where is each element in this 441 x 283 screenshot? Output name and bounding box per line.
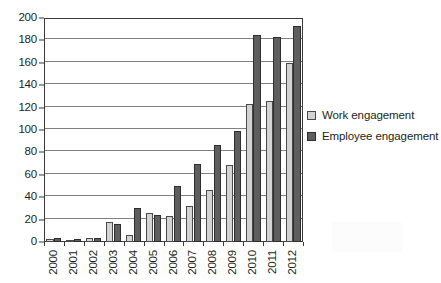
bar [186, 206, 193, 242]
bar-group [223, 18, 243, 242]
y-tick-label: 160 [18, 57, 37, 69]
x-tick-label: 2004 [128, 250, 140, 275]
bar [253, 35, 260, 242]
x-tick-label: 2002 [88, 250, 100, 275]
bar [106, 222, 113, 242]
x-tick-mark [104, 242, 105, 246]
legend-item-employee-engagement: Employee engagement [307, 131, 439, 143]
y-tick-label: 180 [18, 35, 37, 47]
x-tick-label: 2006 [168, 250, 180, 275]
bar [134, 208, 141, 242]
bar [126, 235, 133, 242]
bar [114, 224, 121, 242]
bar-chart: 020406080100120140160180200 200020012002… [0, 0, 441, 283]
scan-artifact [332, 222, 402, 252]
x-tick-mark [283, 242, 284, 246]
x-tick-label: 2009 [227, 250, 239, 275]
bar-group [263, 18, 283, 242]
bar [214, 145, 221, 242]
bar-group [144, 18, 164, 242]
bar [146, 213, 153, 242]
y-tick-label: 200 [18, 12, 37, 24]
bar [174, 186, 181, 242]
chart-legend: Work engagement Employee engagement [307, 110, 439, 151]
bar [266, 101, 273, 242]
bar [293, 26, 300, 242]
bar-group [84, 18, 104, 242]
x-tick-label: 2012 [287, 250, 299, 275]
bar [286, 63, 293, 242]
x-tick-mark [44, 242, 45, 246]
bar [273, 37, 280, 242]
y-tick-label: 40 [25, 191, 37, 203]
bar [194, 164, 201, 242]
bar [226, 165, 233, 242]
bar [154, 215, 161, 242]
bar-group [203, 18, 223, 242]
bar [234, 131, 241, 242]
bar [206, 190, 213, 242]
bar-group [44, 18, 64, 242]
legend-item-label: Employee engagement [322, 131, 438, 143]
y-tick-label: 80 [25, 147, 37, 159]
x-tick-mark [84, 242, 85, 246]
y-axis: 020406080100120140160180200 [0, 18, 44, 242]
x-tick-mark [144, 242, 145, 246]
x-tick-label: 2000 [48, 250, 60, 275]
x-tick-label: 2011 [267, 250, 279, 274]
bars-layer [44, 18, 303, 242]
x-tick-label: 2005 [148, 250, 160, 275]
bar-group [104, 18, 124, 242]
y-tick-label: 0 [31, 236, 37, 248]
x-tick-mark [164, 242, 165, 246]
dark-square-swatch-icon [307, 132, 316, 141]
x-tick-mark [183, 242, 184, 246]
y-tick-label: 140 [18, 79, 37, 91]
bar-group [283, 18, 303, 242]
bar-group [243, 18, 263, 242]
x-tick-label: 2003 [108, 250, 120, 275]
bar [246, 104, 253, 242]
x-tick-mark [64, 242, 65, 246]
bar-group [164, 18, 184, 242]
x-tick-mark [303, 242, 304, 246]
legend-item-label: Work engagement [322, 110, 414, 122]
bar-group [124, 18, 144, 242]
x-tick-label: 2007 [187, 250, 199, 275]
y-tick-label: 60 [25, 169, 37, 181]
y-tick-label: 120 [18, 102, 37, 114]
x-tick-mark [203, 242, 204, 246]
bar-group [64, 18, 84, 242]
y-tick-label: 20 [25, 214, 37, 226]
legend-item-work-engagement: Work engagement [307, 110, 439, 122]
x-axis: 2000200120022003200420052006200720082009… [44, 242, 303, 283]
x-tick-label: 2001 [68, 250, 80, 275]
x-tick-mark [263, 242, 264, 246]
y-tick-label: 100 [18, 124, 37, 136]
light-square-swatch-icon [307, 111, 316, 120]
x-tick-label: 2010 [247, 250, 259, 275]
x-tick-label: 2008 [207, 250, 219, 275]
x-tick-mark [124, 242, 125, 246]
bar-group [183, 18, 203, 242]
x-tick-mark [223, 242, 224, 246]
x-tick-mark [243, 242, 244, 246]
bar [166, 216, 173, 242]
